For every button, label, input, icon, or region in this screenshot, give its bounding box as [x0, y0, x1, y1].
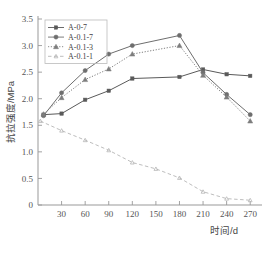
data-point	[248, 113, 252, 117]
y-tick-label: 0	[29, 200, 34, 210]
chart-canvas: 00.51.01.52.02.53.03.5 30609012015018021…	[0, 0, 271, 253]
legend-item-A-0.1-7[interactable]: A-0.1-7	[48, 33, 93, 42]
data-point	[249, 74, 252, 77]
legend-item-A-0.1-3[interactable]: A-0.1-3	[48, 43, 93, 52]
x-axis-tick-group: 306090120150180210240270	[57, 201, 257, 219]
y-tick-label: 2.5	[22, 67, 34, 77]
data-point	[201, 190, 205, 193]
series-line	[44, 69, 251, 114]
data-point	[248, 119, 253, 124]
series-A-0.1-1	[38, 119, 252, 202]
y-tick-label: 3.0	[22, 41, 34, 51]
data-point	[38, 119, 42, 122]
x-tick-label: 270	[243, 209, 257, 219]
legend-label: A-0.1-3	[68, 43, 93, 52]
y-tick-label: 1.0	[22, 147, 34, 157]
data-point	[107, 89, 110, 92]
x-tick-label: 60	[81, 209, 91, 219]
legend-marker	[54, 35, 58, 39]
data-point	[83, 68, 87, 72]
data-point	[130, 161, 134, 164]
chart-figure: 00.51.01.52.02.53.03.5 30609012015018021…	[0, 0, 271, 253]
legend-label: A-0.1-7	[68, 33, 93, 42]
data-point	[59, 91, 63, 95]
data-point	[177, 33, 181, 37]
y-tick-label: 1.5	[22, 120, 34, 130]
data-point	[130, 43, 134, 47]
y-tick-label: 3.5	[22, 14, 34, 24]
x-tick-label: 210	[196, 209, 210, 219]
legend-marker	[54, 26, 57, 29]
x-tick-label: 30	[57, 209, 67, 219]
y-tick-label: 0.5	[22, 174, 34, 184]
data-point	[60, 129, 64, 132]
x-tick-label: 240	[220, 209, 234, 219]
legend-label: A-0-7	[68, 23, 87, 32]
x-axis-title: 时间/d	[210, 225, 238, 236]
data-point	[106, 66, 111, 71]
x-tick-label: 180	[173, 209, 187, 219]
x-tick-label: 150	[149, 209, 163, 219]
data-point	[225, 197, 229, 200]
chart-legend: A-0-7A-0.1-7A-0.1-3A-0.1-1	[45, 20, 107, 63]
data-point	[177, 43, 182, 48]
y-tick-label: 2.0	[22, 94, 34, 104]
data-point	[154, 167, 158, 170]
y-axis-tick-group: 00.51.01.52.02.53.03.5	[22, 14, 42, 210]
data-point	[83, 98, 86, 101]
data-point	[178, 75, 181, 78]
y-axis-title: 抗拉强度/MPa	[5, 80, 16, 143]
data-point	[83, 77, 88, 82]
data-point	[131, 77, 134, 80]
series-A-0-7	[42, 68, 252, 117]
legend-label: A-0.1-1	[68, 52, 93, 61]
data-point	[60, 112, 63, 115]
legend-item-A-0.1-1[interactable]: A-0.1-1	[48, 52, 93, 61]
series-line	[40, 121, 250, 200]
data-point	[225, 73, 228, 76]
legend-item-A-0-7[interactable]: A-0-7	[48, 23, 87, 32]
x-tick-label: 90	[104, 209, 114, 219]
x-tick-label: 120	[126, 209, 140, 219]
